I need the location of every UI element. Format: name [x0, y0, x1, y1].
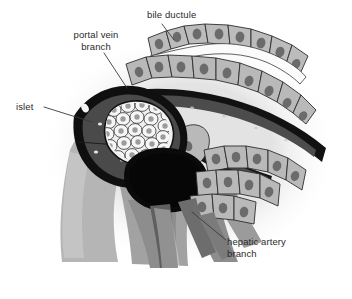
label-portal-vein-branch: portal vein branch	[58, 29, 134, 52]
label-bile-ductule: bile ductule	[147, 9, 227, 21]
anatomy-figure: portal vein branch bile ductule islet he…	[0, 0, 352, 299]
label-islet: islet	[16, 101, 50, 113]
label-hepatic-artery-branch: hepatic artery branch	[227, 236, 337, 259]
